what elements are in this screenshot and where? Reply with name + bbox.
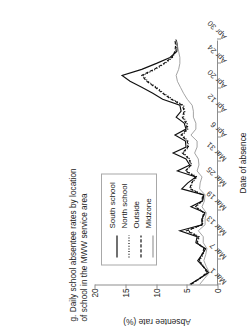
chart-title: g. Daily school absentee rates by locati… (68, 168, 90, 321)
legend-item[interactable]: South school (107, 180, 119, 258)
y-tick-label: 20 (91, 288, 100, 297)
legend-item-label: South school (108, 182, 118, 228)
legend-item-label: Midzone (144, 198, 154, 228)
y-tick-mark (95, 284, 96, 288)
y-tick-label: 15 (121, 288, 130, 297)
y-tick-mark (125, 284, 126, 288)
series-line-midzone (176, 39, 196, 284)
y-tick-mark (156, 284, 157, 288)
legend-item[interactable]: Outside (131, 180, 143, 258)
legend-line-swatch (144, 234, 154, 258)
legend-item[interactable]: North school (119, 180, 131, 258)
legend-line-swatch (132, 234, 142, 258)
y-axis-label: Absentee rate (%) (95, 315, 196, 327)
legend-line-swatch (108, 234, 118, 258)
y-tick-label: 10 (152, 288, 161, 297)
chart-legend: South schoolNorth schoolOutsideMidzone (101, 173, 157, 265)
chart-figure: g. Daily school absentee rates by locati… (62, 0, 196, 331)
legend-item[interactable]: Midzone (143, 180, 155, 258)
y-axis-label-text: Absentee rate (%) (123, 316, 191, 326)
legend-item-label: North school (120, 183, 130, 228)
legend-line-swatch (120, 234, 130, 258)
legend-item-label: Outside (132, 200, 142, 228)
figure-rotation-wrapper: g. Daily school absentee rates by locati… (62, 0, 196, 331)
y-tick-label: 5 (183, 288, 192, 293)
